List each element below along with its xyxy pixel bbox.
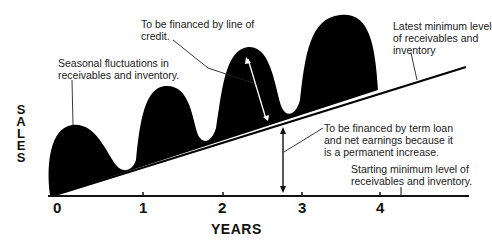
- line-of-credit-label: To be financed by line of credit.: [141, 18, 254, 42]
- x-tick-label-0: 0: [53, 199, 61, 216]
- x-tick-label-2: 2: [218, 199, 226, 216]
- arrowhead-up-black: [280, 127, 286, 134]
- y-axis-letter: S: [14, 152, 28, 164]
- x-axis-label: YEARS: [211, 221, 262, 237]
- term-loan-leader: [284, 128, 323, 152]
- latest-minimum-leader: [411, 53, 417, 80]
- latest-minimum-label: Latest minimum level of receivables and …: [393, 20, 492, 56]
- arrowhead-down-black: [280, 186, 286, 193]
- y-axis-label: S A L E S: [14, 104, 28, 164]
- term-loan-label: To be financed by term loan and net earn…: [324, 122, 453, 158]
- x-tick-label-3: 3: [298, 199, 306, 216]
- x-tick-label-4: 4: [376, 199, 384, 216]
- seasonal-fluctuations-label: Seasonal fluctuations in receivables and…: [58, 57, 179, 81]
- x-tick-label-1: 1: [139, 199, 147, 216]
- seasonal-leader: [72, 80, 73, 125]
- starting-minimum-label: Starting minimum level of receivables an…: [351, 163, 472, 187]
